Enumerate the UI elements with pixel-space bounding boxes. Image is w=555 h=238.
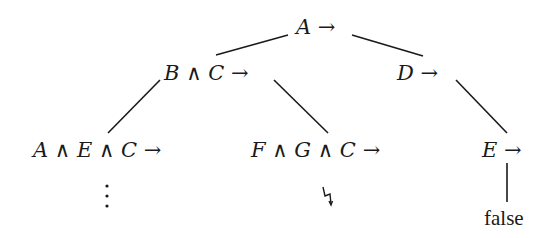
implies-arrow: → — [144, 138, 162, 162]
vertical-ellipsis-icon — [101, 182, 113, 212]
derivation-tree: A → B ∧ C → D → A ∧ E ∧ C → F ∧ G ∧ C → … — [0, 0, 555, 238]
var-c: C — [340, 138, 356, 162]
node-right-child: E → — [482, 140, 522, 161]
node-root: A → — [296, 17, 335, 38]
contradiction-lightning-icon — [320, 186, 334, 208]
var-e: E — [77, 138, 92, 162]
and-operator: ∧ — [186, 61, 201, 85]
and-operator: ∧ — [99, 138, 114, 162]
implies-arrow: → — [318, 15, 336, 39]
implies-arrow: → — [504, 138, 522, 162]
var-b: B — [164, 61, 179, 85]
node-root-var-a: A — [296, 15, 311, 39]
node-left-left: A ∧ E ∧ C → — [33, 140, 161, 161]
implies-arrow: → — [363, 138, 381, 162]
node-right: D → — [397, 63, 438, 84]
node-false-leaf: false — [484, 208, 524, 229]
var-g: G — [294, 138, 311, 162]
implies-arrow: → — [421, 61, 439, 85]
node-left: B ∧ C → — [164, 63, 249, 84]
edge-left-leftright — [274, 80, 328, 133]
var-c: C — [121, 138, 137, 162]
and-operator: ∧ — [55, 138, 70, 162]
var-d: D — [397, 61, 414, 85]
node-left-right: F ∧ G ∧ C → — [251, 140, 380, 161]
and-operator: ∧ — [318, 138, 333, 162]
edge-root-left — [216, 35, 288, 55]
implies-arrow: → — [231, 61, 249, 85]
and-operator: ∧ — [272, 138, 287, 162]
var-a: A — [33, 138, 48, 162]
edge-left-leftleft — [108, 80, 160, 133]
var-c: C — [208, 61, 224, 85]
edge-right-rightchild — [456, 80, 507, 133]
edge-root-right — [352, 35, 423, 56]
tree-edges — [0, 0, 555, 238]
var-f: F — [251, 138, 266, 162]
var-e: E — [482, 138, 497, 162]
